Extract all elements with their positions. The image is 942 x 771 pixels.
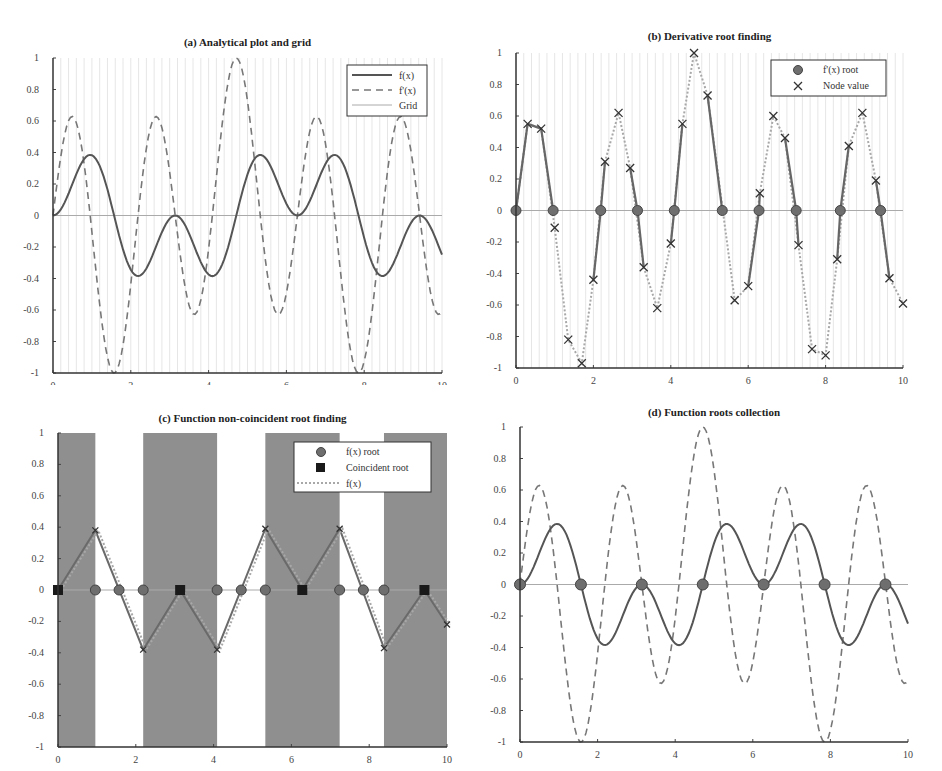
legend-label-root: f'(x) root: [823, 64, 859, 76]
y-tick-label: 0.2: [27, 178, 40, 189]
y-tick-label: -0.8: [490, 705, 506, 716]
y-tick-label: -0.8: [23, 336, 39, 347]
fx-root-marker: [358, 585, 368, 595]
x-tick-label: 8: [367, 754, 372, 765]
x-tick-label: 6: [750, 749, 755, 760]
chart-c-non-coincident-root-finding: (c) Function non-coincident root finding…: [0, 385, 471, 771]
coincident-root-marker: [297, 585, 307, 595]
y-tick-label: 0.6: [494, 484, 507, 495]
fx-root-marker: [236, 585, 246, 595]
y-tick-label: -0.2: [28, 615, 44, 626]
y-tick-label: 0.8: [490, 79, 503, 90]
legend-label-fx: f(x): [399, 70, 414, 82]
panel-c: (c) Function non-coincident root finding…: [0, 385, 471, 771]
y-tick-label: -0.2: [490, 610, 506, 621]
chart-title: (d) Function roots collection: [648, 406, 780, 419]
x-tick-label: 0: [518, 749, 523, 760]
y-tick-label: 1: [39, 427, 44, 438]
y-tick-label: 0.4: [494, 516, 507, 527]
root-bracket-segment: [748, 211, 759, 287]
x-tick-label: 2: [591, 375, 596, 385]
legend-swatch-root: [317, 448, 326, 457]
derivative-root-marker: [835, 206, 845, 216]
chart-d-roots-collection: (d) Function roots collection10.80.60.40…: [471, 385, 942, 771]
function-root-marker: [575, 579, 586, 590]
y-tick-label: 0.8: [27, 84, 40, 95]
legend-label-coincident: Coincident root: [346, 462, 409, 473]
x-tick-label: 6: [289, 754, 294, 765]
panel-b: (b) Derivative root finding10.80.60.40.2…: [471, 0, 942, 385]
y-tick-label: -1: [494, 362, 502, 373]
y-tick-label: 1: [497, 47, 502, 58]
function-root-marker: [636, 579, 647, 590]
y-tick-label: 1: [34, 52, 39, 63]
derivative-root-marker: [754, 206, 764, 216]
y-tick-label: -0.4: [28, 647, 44, 658]
y-tick-label: 0.2: [494, 547, 507, 558]
y-tick-label: 0.8: [494, 453, 507, 464]
y-tick-label: -0.4: [490, 642, 506, 653]
y-tick-label: 0.8: [32, 458, 45, 469]
y-tick-label: -0.6: [23, 304, 39, 315]
x-tick-label: 4: [673, 749, 678, 760]
function-root-marker: [758, 579, 769, 590]
fx-root-marker: [212, 585, 222, 595]
derivative-root-marker: [596, 206, 606, 216]
root-bracket-segment: [840, 146, 849, 211]
y-tick-label: -0.6: [28, 678, 44, 689]
y-tick-label: 0.6: [32, 490, 45, 501]
derivative-root-marker: [717, 206, 727, 216]
fx-root-marker: [90, 585, 100, 595]
function-root-marker: [819, 579, 830, 590]
y-tick-label: -0.6: [490, 673, 506, 684]
chart-title: (b) Derivative root finding: [648, 30, 772, 43]
chart-title: (c) Function non-coincident root finding: [158, 412, 347, 425]
y-tick-label: 0.4: [32, 521, 45, 532]
fx-root-marker: [260, 585, 270, 595]
y-tick-label: 0: [34, 210, 39, 221]
y-tick-label: -1: [36, 741, 44, 752]
y-tick-label: -1: [498, 736, 506, 747]
function-root-marker: [697, 579, 708, 590]
derivative-root-marker: [669, 206, 679, 216]
y-tick-label: 0.4: [27, 147, 40, 158]
legend-label-node: Node value: [823, 80, 869, 91]
x-tick-label: 4: [211, 754, 216, 765]
y-tick-label: 0.4: [490, 142, 503, 153]
y-tick-label: -0.4: [486, 268, 502, 279]
x-tick-label: 2: [595, 749, 600, 760]
derivative-root-marker: [791, 206, 801, 216]
chart-a-analytical-plot: (a) Analytical plot and grid10.80.60.40.…: [0, 0, 471, 385]
x-tick-label: 0: [514, 375, 519, 385]
coincident-root-marker: [419, 585, 429, 595]
y-tick-label: -0.2: [486, 236, 502, 247]
node-value-marker: [564, 336, 572, 344]
y-tick-label: -0.8: [486, 331, 502, 342]
y-tick-label: 1: [501, 421, 506, 432]
legend-label-grid: Grid: [399, 100, 417, 111]
coincident-root-marker: [175, 585, 185, 595]
y-tick-label: -0.6: [486, 299, 502, 310]
x-tick-label: 6: [746, 375, 751, 385]
root-bracket-segment: [881, 211, 890, 279]
root-bracket-segment: [638, 211, 644, 268]
y-tick-label: -0.8: [28, 710, 44, 721]
chart-title: (a) Analytical plot and grid: [184, 36, 311, 49]
y-tick-label: 0.6: [490, 110, 503, 121]
root-bracket-segment: [593, 211, 600, 280]
x-tick-label: 8: [828, 749, 833, 760]
panel-a: (a) Analytical plot and grid10.80.60.40.…: [0, 0, 471, 385]
x-tick-label: 10: [898, 375, 908, 385]
legend-label-root: f(x) root: [346, 446, 380, 458]
derivative-root-marker: [633, 206, 643, 216]
node-value-marker: [808, 345, 816, 353]
derivative-root-marker: [876, 206, 886, 216]
legend-swatch-root: [794, 66, 803, 75]
chart-b-derivative-root-finding: (b) Derivative root finding10.80.60.40.2…: [471, 0, 942, 385]
y-tick-label: 0.2: [490, 173, 503, 184]
panel-d: (d) Function roots collection10.80.60.40…: [471, 385, 942, 771]
root-bracket-segment: [516, 124, 528, 211]
x-tick-label: 2: [133, 754, 138, 765]
root-bracket-segment: [630, 168, 637, 211]
derivative-root-marker: [548, 206, 558, 216]
